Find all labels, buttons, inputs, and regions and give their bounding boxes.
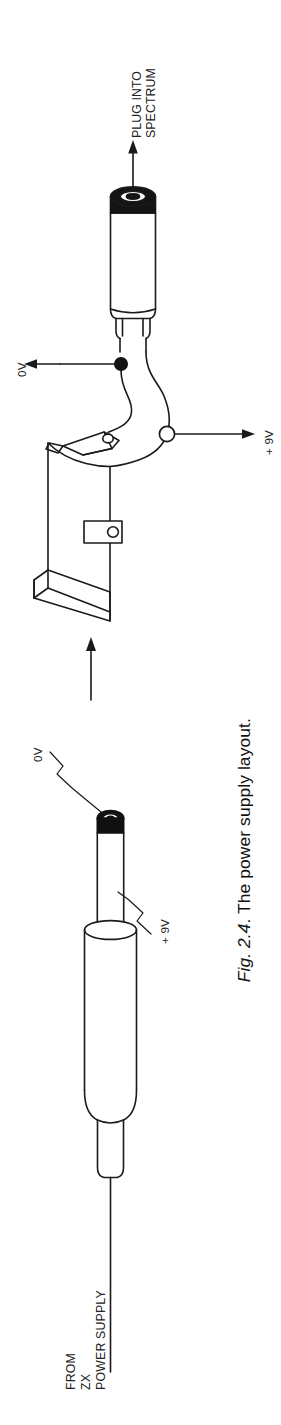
battery-snap-connector <box>46 432 119 455</box>
figure-caption-text: . The power supply layout. <box>234 718 254 923</box>
label-nine-volt-plug-lead: + 9V <box>158 919 171 944</box>
figure-number: Fig. 2.4 <box>234 923 254 982</box>
zero-volt-branch <box>24 358 127 370</box>
label-zero-volt-terminal: 0V <box>15 362 28 377</box>
dc-plug-barrel <box>97 833 123 930</box>
zero-volt-leader-line <box>50 752 101 812</box>
negative-lead-wire <box>108 370 132 433</box>
nine-volt-node <box>159 426 255 441</box>
power-supply-illustration <box>0 0 281 1425</box>
cable-strain-relief <box>98 1120 124 1178</box>
jack-plug-sleeve <box>116 319 150 353</box>
figure-caption: Fig. 2.4. The power supply layout. <box>213 718 276 1002</box>
dc-plug-body <box>85 921 137 1120</box>
label-nine-volt-terminal: + 9V <box>262 430 275 455</box>
battery-side-terminal <box>84 521 122 543</box>
label-zero-volt-plug-lead: 0V <box>31 747 44 762</box>
label-plug-into-spectrum: PLUG INTO SPECTRUM <box>131 68 159 138</box>
jack-plug-body <box>111 187 156 319</box>
battery-pointer-arrow <box>86 637 96 700</box>
figure-container: PLUG INTO SPECTRUM 0V + 9V 0V + 9V FROM … <box>0 0 281 1425</box>
battery-base-block <box>34 570 110 621</box>
label-from-zx-power-supply: FROM ZX POWER SUPPLY <box>64 1290 109 1390</box>
dc-plug-tip <box>97 811 123 833</box>
